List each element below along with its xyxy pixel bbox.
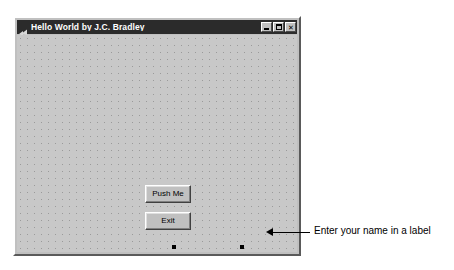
vb-form-icon — [19, 23, 28, 32]
window-title: Hello World by J.C. Bradley — [31, 23, 261, 32]
window-controls: ✕ — [261, 22, 296, 32]
annotation-leader-line — [272, 232, 310, 233]
annotation-text: Enter your name in a label — [314, 225, 431, 237]
maximize-button[interactable] — [273, 22, 284, 32]
close-button[interactable]: ✕ — [285, 22, 296, 32]
minimize-button[interactable] — [261, 22, 272, 32]
close-icon: ✕ — [286, 23, 295, 31]
resize-handle-top-left[interactable] — [172, 245, 176, 249]
push-me-button[interactable]: Push Me — [145, 185, 191, 203]
minimize-icon — [262, 23, 271, 31]
label1-selection[interactable]: Label1 — [172, 245, 244, 252]
vb-form-window[interactable]: Hello World by J.C. Bradley ✕ Push Me Ex… — [13, 16, 301, 256]
maximize-icon — [274, 23, 283, 31]
title-bar[interactable]: Hello World by J.C. Bradley ✕ — [17, 20, 297, 34]
form-design-surface[interactable]: Push Me Exit Label1 — [17, 35, 297, 252]
resize-handle-top-right[interactable] — [240, 245, 244, 249]
exit-button[interactable]: Exit — [145, 212, 191, 230]
